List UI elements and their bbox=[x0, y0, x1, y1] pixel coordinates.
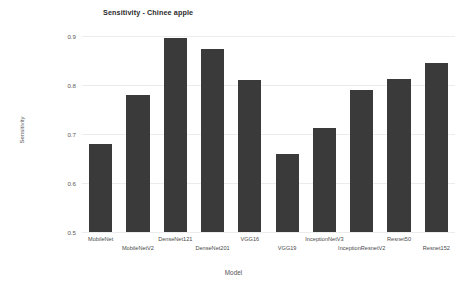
bar bbox=[201, 49, 224, 232]
x-axis-tick-label: VGG19 bbox=[247, 245, 327, 251]
bar bbox=[387, 79, 410, 232]
x-axis-title: Model bbox=[0, 269, 467, 276]
bar bbox=[350, 90, 373, 232]
x-axis-tick-label: MobileNetV2 bbox=[98, 245, 178, 251]
x-axis-tick-label: MobileNet bbox=[61, 236, 141, 242]
bar bbox=[425, 63, 448, 232]
gridline bbox=[82, 36, 455, 37]
y-axis-tick-label: 0.7 bbox=[54, 131, 76, 138]
y-axis-title: Sensitivity bbox=[19, 100, 25, 160]
gridline bbox=[82, 232, 455, 233]
y-axis-tick-label: 0.9 bbox=[54, 33, 76, 40]
x-axis-tick-label: InceptionNetV3 bbox=[284, 236, 364, 242]
x-axis-tick-label: InceptionResnetV2 bbox=[322, 245, 402, 251]
bar bbox=[276, 154, 299, 232]
y-axis-tick-label: 0.6 bbox=[54, 180, 76, 187]
x-axis-tick-label: Resnet152 bbox=[396, 245, 467, 251]
y-axis-tick-label: 0.8 bbox=[54, 82, 76, 89]
plot-area bbox=[82, 36, 455, 232]
bar bbox=[164, 38, 187, 232]
bar bbox=[238, 80, 261, 232]
bar bbox=[313, 128, 336, 232]
chart-figure: Sensitivity - Chinee apple Sensitivity M… bbox=[0, 0, 467, 288]
x-axis-tick-label: VGG16 bbox=[210, 236, 290, 242]
chart-title: Sensitivity - Chinee apple bbox=[103, 8, 193, 17]
x-axis-tick-label: DenseNet201 bbox=[173, 245, 253, 251]
x-axis-tick-label: Resnet50 bbox=[359, 236, 439, 242]
bar bbox=[89, 144, 112, 232]
bar bbox=[126, 95, 149, 232]
y-axis-tick-label: 0.5 bbox=[54, 229, 76, 236]
x-axis-tick-label: DenseNet121 bbox=[135, 236, 215, 242]
